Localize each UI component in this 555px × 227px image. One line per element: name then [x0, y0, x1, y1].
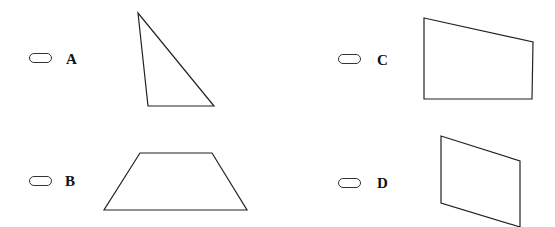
- parallelogram-shape-d: [441, 136, 520, 227]
- trapezoid-shape-b: [104, 153, 247, 210]
- shapes-canvas: [0, 0, 555, 227]
- answer-choices: A B C D: [0, 0, 555, 227]
- quadrilateral-shape-c: [424, 18, 533, 99]
- triangle-shape-a: [138, 13, 214, 106]
